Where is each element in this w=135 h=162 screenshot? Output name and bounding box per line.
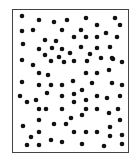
dot [37,130,42,135]
dot [120,142,125,147]
dot [65,18,70,23]
dot [37,143,42,148]
dot [102,144,107,149]
dot [20,58,25,63]
dot [49,59,54,64]
dot [99,56,104,61]
dot [57,55,62,60]
dot [44,107,49,112]
dot [118,94,123,99]
dot [107,111,112,116]
dot [120,60,125,65]
dot [60,83,65,88]
dot [108,45,113,50]
dot [118,118,123,123]
dot [31,63,36,68]
dot [116,107,121,112]
dot [108,125,113,130]
dot [20,80,25,85]
dot [71,79,76,84]
dot [52,20,57,25]
dot [108,134,113,139]
dot [95,23,100,28]
dot [60,107,65,112]
dot [84,16,89,21]
dot [90,81,95,86]
dot [20,14,25,19]
dot [34,98,39,103]
dot [62,60,67,65]
dot [60,47,65,52]
dot [21,42,26,47]
dot [110,81,115,86]
dot [95,94,100,99]
dot [105,96,110,101]
dot [95,35,100,40]
dot [18,94,23,99]
dot [80,88,85,93]
dot [43,38,48,43]
dot [79,45,84,50]
dot [20,29,25,34]
dot [60,94,65,99]
dot [111,57,116,62]
dot [84,98,89,103]
dot [72,59,77,64]
dot [107,68,112,73]
dot [37,18,42,23]
dot [120,83,125,88]
dot [79,28,84,33]
dot [85,59,90,64]
dot [45,91,50,96]
dot [115,35,120,40]
dot [80,113,85,118]
dot [84,35,89,40]
dot [25,143,30,148]
dot [80,142,85,147]
dot [72,130,77,135]
dot [120,133,125,138]
dot [52,122,57,127]
dot [95,46,100,51]
dot [68,51,73,56]
dot [88,52,93,57]
dot [49,83,54,88]
dot [37,47,42,52]
dot [113,16,118,21]
dot [95,71,100,76]
dot [72,92,77,97]
dot [37,107,42,112]
dot [72,35,77,40]
dot [21,124,26,129]
dot [72,100,77,105]
dot [49,138,54,143]
dot [25,100,30,105]
dot [29,135,34,140]
dot [69,116,74,121]
dot [84,71,89,76]
dot [84,107,89,112]
dot [31,28,36,33]
dot [37,71,42,76]
dot [46,73,51,78]
dot [37,118,42,123]
dot [60,140,65,145]
dot [95,107,100,112]
dot [95,130,100,135]
dot [118,23,123,28]
dot [64,122,69,127]
dot [60,28,65,33]
dot [84,130,89,135]
dot [54,39,59,44]
dot [43,53,48,58]
dot [104,31,109,36]
dot [50,46,55,51]
dot-field [0,0,135,162]
dot [37,83,42,88]
